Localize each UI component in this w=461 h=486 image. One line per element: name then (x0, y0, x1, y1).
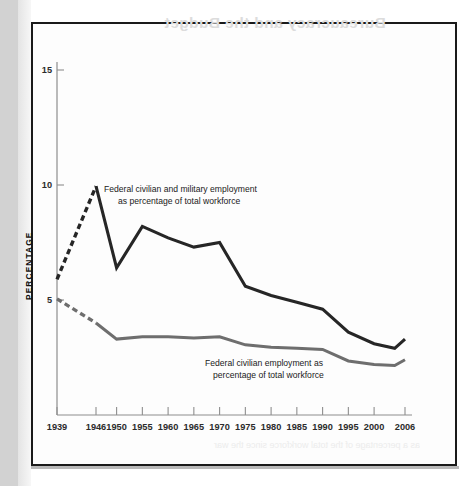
annotation-lower-line-0: Federal civilian employment as (205, 358, 323, 368)
series-line-0-estimated (57, 186, 96, 279)
y-tick-label: 15 (42, 65, 52, 75)
x-tick-label: 1980 (261, 422, 281, 432)
y-axis-title: PERCENTAGE (24, 231, 34, 300)
chart-series (57, 186, 405, 365)
x-tick-label: 1946 (86, 422, 106, 432)
series-line-0 (96, 186, 405, 348)
scanned-page: Bureaucracy and the Budget as a percenta… (0, 0, 461, 486)
x-tick-label: 1939 (47, 422, 67, 432)
annotation-upper-line-0: Federal civilian and military employment (104, 184, 257, 194)
line-chart: 5101519391946195019551960196519701975198… (0, 0, 461, 486)
x-tick-label: 1960 (158, 422, 178, 432)
y-tick-label: 5 (47, 295, 52, 305)
x-tick-label: 2000 (364, 422, 384, 432)
x-tick-label: 1975 (235, 422, 255, 432)
y-tick-label: 10 (42, 180, 52, 190)
x-tick-label: 1955 (132, 422, 152, 432)
x-tick-label: 1965 (184, 422, 204, 432)
series-line-1-estimated (57, 299, 96, 323)
annotation-upper-line-1: as percentage of total workforce (118, 196, 241, 206)
x-tick-label: 1985 (287, 422, 307, 432)
x-tick-label: 1950 (106, 422, 126, 432)
annotation-lower-line-1: percentage of total workforce (213, 370, 324, 380)
x-tick-label: 2006 (395, 422, 415, 432)
chart-labels: 5101519391946195019551960196519701975198… (24, 65, 415, 432)
x-tick-label: 1995 (338, 422, 358, 432)
x-tick-label: 1970 (209, 422, 229, 432)
x-tick-label: 1990 (312, 422, 332, 432)
